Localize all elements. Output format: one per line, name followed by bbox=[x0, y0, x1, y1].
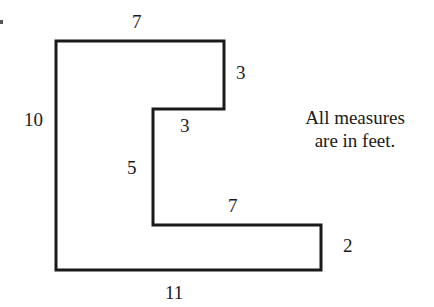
units-note-line-1: All measures bbox=[290, 106, 420, 129]
label-lower-step: 7 bbox=[228, 196, 238, 215]
figure-outline bbox=[56, 41, 321, 270]
label-right-upper-side: 3 bbox=[236, 63, 246, 82]
units-note-line-2: are in feet. bbox=[290, 129, 420, 152]
label-inner-step: 3 bbox=[180, 116, 190, 135]
units-note: All measures are in feet. bbox=[290, 106, 420, 152]
label-right-lower-side: 2 bbox=[343, 236, 353, 255]
l-shaped-figure bbox=[0, 0, 434, 307]
label-top-side: 7 bbox=[132, 12, 142, 31]
label-left-side: 10 bbox=[24, 110, 43, 129]
label-bottom-side: 11 bbox=[165, 283, 183, 302]
label-inner-vertical: 5 bbox=[127, 158, 137, 177]
